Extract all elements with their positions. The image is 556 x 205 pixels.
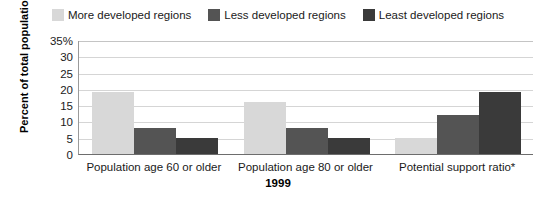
legend-item: More developed regions [52,9,191,21]
legend-label: Least developed regions [379,9,504,21]
x-axis-category-label: Population age 60 or older [86,161,221,173]
bar-group [244,41,370,154]
x-axis-title: 1999 [0,177,556,189]
y-axis-tick-label: 20 [60,84,73,96]
y-axis-tick-label: 35% [50,35,73,47]
legend-item: Less developed regions [208,9,345,21]
y-axis-tick-label: 15 [60,100,73,112]
plot-area [78,41,533,155]
legend-label: Less developed regions [224,9,345,21]
bar [176,138,218,154]
legend-swatch-least-developed [363,9,375,21]
x-axis-category-label: Population age 80 or older [238,161,373,173]
y-axis-tick-label: 5 [67,133,73,145]
x-axis-category-label: Potential support ratio* [399,161,515,173]
y-axis-tick-label: 30 [60,51,73,63]
bar [437,115,479,154]
bar [479,92,521,154]
y-axis-tick-label: 10 [60,116,73,128]
legend-item: Least developed regions [363,9,504,21]
y-axis-tick-label: 0 [67,149,73,161]
bar [328,138,370,154]
chart-legend: More developed regions Less developed re… [0,9,556,21]
legend-swatch-more-developed [52,9,64,21]
y-axis-title: Percent of total population [18,3,30,133]
bar [244,102,286,154]
plot-wrap: 05101520253035% [78,41,533,155]
bar-group [92,41,218,154]
bar-group [395,41,521,154]
bar [92,92,134,154]
legend-label: More developed regions [68,9,191,21]
legend-swatch-less-developed [208,9,220,21]
bar [395,138,437,154]
bar [134,128,176,154]
y-axis-tick-label: 25 [60,68,73,80]
bar [286,128,328,154]
bar-chart: More developed regions Less developed re… [0,0,556,205]
